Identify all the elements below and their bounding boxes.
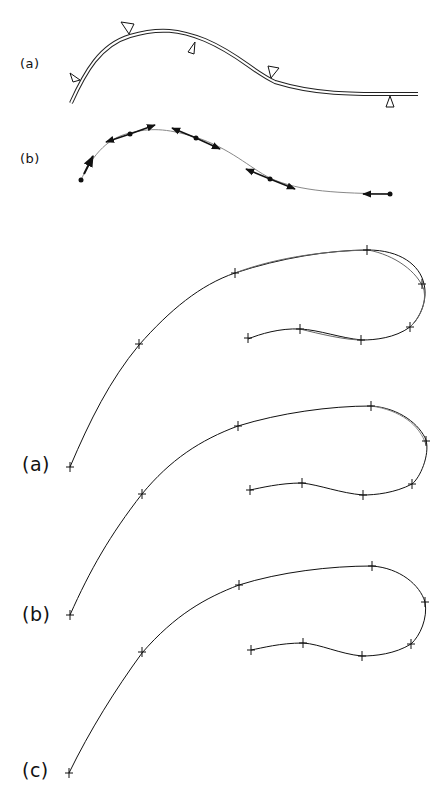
weight-marker-icon xyxy=(268,66,279,78)
tangent-spline-b xyxy=(79,125,393,197)
weight-marker-icon xyxy=(70,73,80,82)
diagram-canvas xyxy=(0,0,448,810)
hook-curve-c xyxy=(65,561,429,778)
weight-marker-icon xyxy=(121,22,134,34)
weight-marker-icon xyxy=(386,96,394,107)
hook-curve-b xyxy=(66,401,430,620)
weight-marker-icon xyxy=(188,42,195,54)
elastic-spline-a xyxy=(70,22,418,107)
hook-curve-a xyxy=(66,245,426,472)
